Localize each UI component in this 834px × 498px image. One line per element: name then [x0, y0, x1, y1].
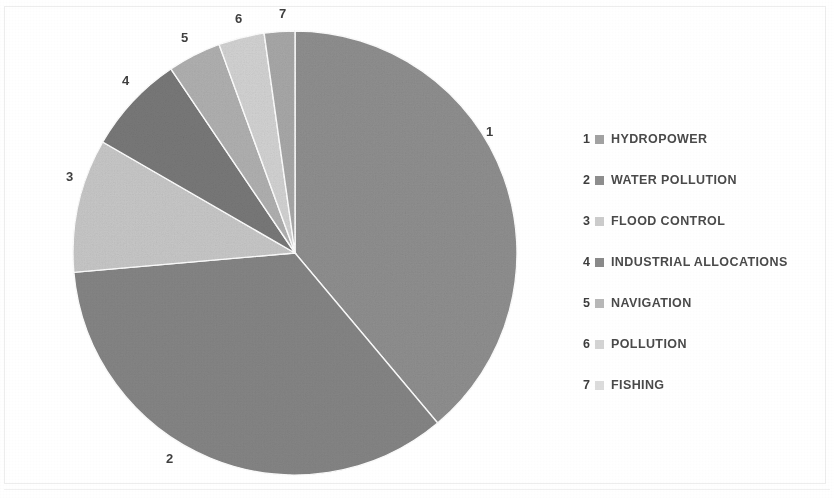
slice-number-label-7: 7 — [279, 7, 286, 20]
legend-index-4: 4 — [583, 255, 594, 269]
slice-number-label-4: 4 — [122, 74, 129, 87]
legend-index-6: 6 — [583, 337, 594, 351]
legend-index-1: 1 — [583, 132, 594, 146]
slice-number-label-6: 6 — [235, 12, 242, 25]
legend-item-flood-control[interactable]: 3FLOOD CONTROL — [583, 213, 833, 229]
legend-item-fishing[interactable]: 7FISHING — [583, 377, 833, 393]
legend-item-navigation[interactable]: 5NAVIGATION — [583, 295, 833, 311]
legend-item-industrial-allocations[interactable]: 4INDUSTRIAL ALLOCATIONS — [583, 254, 833, 270]
pie-chart: 1234567 — [0, 0, 560, 498]
legend-label: FLOOD CONTROL — [611, 214, 725, 228]
legend-color-swatch-icon — [595, 135, 604, 144]
slice-number-label-5: 5 — [181, 31, 188, 44]
legend-label: NAVIGATION — [611, 296, 692, 310]
pie-chart-svg — [0, 0, 560, 498]
legend-index-3: 3 — [583, 214, 594, 228]
legend-color-swatch-icon — [595, 299, 604, 308]
legend-color-swatch-icon — [595, 258, 604, 267]
legend-color-swatch-icon — [595, 217, 604, 226]
legend-label: WATER POLLUTION — [611, 173, 737, 187]
page-canvas: 1234567 1HYDROPOWER2WATER POLLUTION3FLOO… — [0, 0, 834, 498]
legend-index-2: 2 — [583, 173, 594, 187]
slice-number-label-2: 2 — [166, 452, 173, 465]
slice-number-label-1: 1 — [486, 125, 493, 138]
legend-label: FISHING — [611, 378, 665, 392]
legend-color-swatch-icon — [595, 381, 604, 390]
chart-legend: 1HYDROPOWER2WATER POLLUTION3FLOOD CONTRO… — [583, 131, 833, 393]
legend-index-7: 7 — [583, 378, 594, 392]
legend-color-swatch-icon — [595, 176, 604, 185]
legend-item-hydropower[interactable]: 1HYDROPOWER — [583, 131, 833, 147]
legend-label: POLLUTION — [611, 337, 687, 351]
pie-slices — [73, 31, 517, 475]
legend-item-water-pollution[interactable]: 2WATER POLLUTION — [583, 172, 833, 188]
legend-item-pollution[interactable]: 6POLLUTION — [583, 336, 833, 352]
legend-label: INDUSTRIAL ALLOCATIONS — [611, 255, 788, 269]
legend-color-swatch-icon — [595, 340, 604, 349]
legend-label: HYDROPOWER — [611, 132, 707, 146]
legend-index-5: 5 — [583, 296, 594, 310]
slice-number-label-3: 3 — [66, 170, 73, 183]
